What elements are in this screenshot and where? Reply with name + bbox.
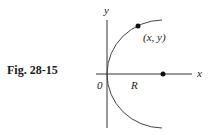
point-xy-dot	[136, 24, 141, 29]
diagram-canvas: y x (x, y) 0 R	[0, 0, 215, 135]
center-dot	[161, 72, 166, 77]
radius-label: R	[130, 79, 138, 91]
point-label: (x, y)	[143, 31, 166, 44]
origin-label: 0	[97, 79, 103, 91]
y-axis-label: y	[103, 4, 109, 16]
x-axis-label: x	[196, 67, 202, 79]
